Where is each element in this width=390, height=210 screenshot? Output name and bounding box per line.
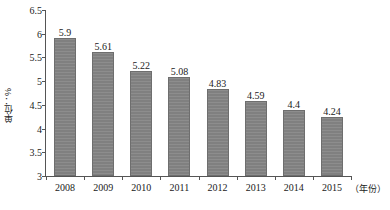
x-axis-tick-mark [160, 176, 161, 180]
bar: 4.24 [321, 117, 343, 176]
y-axis-tick-label: 6.5 [30, 5, 43, 16]
y-axis-tick-label: 4.5 [30, 99, 43, 110]
y-axis-tick-label: 3 [37, 171, 42, 182]
x-axis-category-label: 2011 [170, 182, 190, 193]
x-axis-tick-mark [46, 176, 47, 180]
bar-value-label: 5.22 [133, 60, 151, 71]
bar: 5.9 [54, 38, 76, 176]
y-axis-tick-mark [42, 81, 46, 82]
y-axis-tick-mark [42, 34, 46, 35]
bar: 5.08 [168, 77, 190, 176]
x-axis-category-label: 2012 [208, 182, 228, 193]
bar-value-label: 5.61 [94, 41, 112, 52]
x-axis-tick-mark [237, 176, 238, 180]
x-axis-tick-mark [122, 176, 123, 180]
bar: 4.83 [207, 89, 229, 176]
x-axis-tick-mark [84, 176, 85, 180]
bar-value-label: 4.4 [288, 99, 301, 110]
x-axis-tick-mark [199, 176, 200, 180]
y-axis-tick-label: 5 [37, 76, 42, 87]
x-axis-tick-mark [351, 176, 352, 180]
bar-value-label: 4.24 [323, 106, 341, 117]
bar-value-label: 4.59 [247, 90, 265, 101]
bar-value-label: 5.08 [171, 66, 189, 77]
y-axis-tick-mark [42, 129, 46, 130]
y-axis-tick-mark [42, 152, 46, 153]
bar: 4.4 [283, 110, 305, 176]
y-axis-tick-mark [42, 10, 46, 11]
x-axis-tick-mark [275, 176, 276, 180]
plot-area: 33.544.555.566.5 5.95.615.225.084.834.59… [45, 10, 351, 177]
y-axis-tick-mark [42, 57, 46, 58]
x-axis-category-label: 2015 [322, 182, 342, 193]
bar-value-label: 5.9 [59, 27, 72, 38]
x-axis-category-label: 2009 [93, 182, 113, 193]
y-axis-tick-label: 3.5 [30, 147, 43, 158]
x-axis-category-label: 2008 [55, 182, 75, 193]
x-axis-tick-mark [313, 176, 314, 180]
y-axis-tick-mark [42, 105, 46, 106]
x-axis-category-label: 2010 [131, 182, 151, 193]
bar: 5.61 [92, 52, 114, 176]
y-axis-title-label: 单位：% [1, 88, 14, 123]
x-axis-category-label: 2013 [246, 182, 266, 193]
y-axis-title: 单位：% [0, 66, 14, 146]
y-axis-tick-label: 6 [37, 28, 42, 39]
y-axis-tick-label: 4 [37, 123, 42, 134]
y-axis-tick-label: 5.5 [30, 52, 43, 63]
bar: 5.22 [130, 71, 152, 176]
x-axis-unit-label: （年份） [350, 182, 386, 195]
bar: 4.59 [245, 101, 267, 176]
x-axis-category-label: 2014 [284, 182, 304, 193]
bar-value-label: 4.83 [209, 78, 227, 89]
bar-chart: 单位：% 33.544.555.566.5 5.95.615.225.084.8… [0, 0, 390, 210]
